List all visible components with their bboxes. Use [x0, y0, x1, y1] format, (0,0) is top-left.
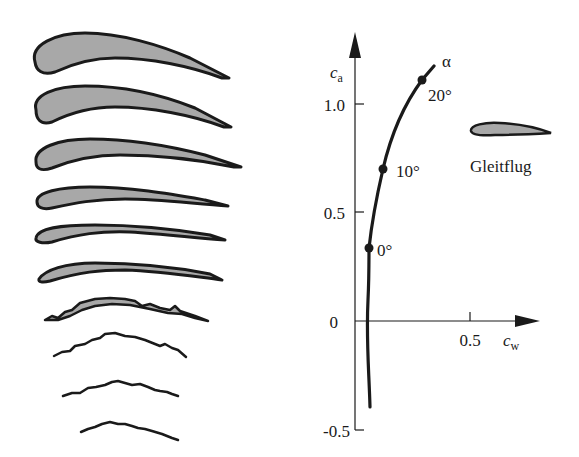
y-tick-label-0.5: 0.5 [324, 204, 345, 223]
point-10deg [379, 165, 388, 174]
y-tick-label-0: 0 [330, 313, 339, 332]
airfoil-profile-2 [36, 86, 231, 127]
y-axis-arrow-icon [349, 32, 361, 58]
y-axis-label: ca [330, 63, 344, 85]
point-label-0deg: 0° [377, 241, 392, 260]
labels: ca 1.0 0.5 0 -0.5 0.5 cw α 20° 10° 0° Gl… [323, 52, 532, 441]
airfoil-series [34, 33, 241, 440]
airfoil-profile-rough-1 [45, 298, 208, 321]
gleitflug-airfoil [471, 123, 551, 136]
point-20deg [418, 76, 427, 85]
airfoil-profile-4 [37, 187, 228, 209]
point-0deg [365, 244, 374, 253]
point-label-10deg: 10° [396, 162, 420, 181]
point-label-20deg: 20° [428, 86, 452, 105]
airfoil-profile-rough-4 [81, 422, 178, 440]
x-axis-label: cw [503, 331, 520, 353]
airfoil-profile-1 [34, 33, 229, 78]
y-tick-label-minus-0.5: -0.5 [323, 422, 350, 441]
x-tick-label-0.5: 0.5 [459, 331, 480, 350]
polar-curve [367, 66, 434, 407]
airfoil-profile-3 [36, 139, 241, 170]
airfoil-profile-5 [36, 225, 225, 243]
airfoil-profile-6 [39, 263, 222, 282]
gleitflug-label: Gleitflug [470, 157, 532, 176]
airfoil-profile-rough-3 [63, 381, 178, 396]
airfoil-profile-rough-2 [54, 333, 186, 357]
alpha-label: α [442, 52, 451, 71]
y-tick-label-1.0: 1.0 [324, 96, 345, 115]
polar-diagram: ca 1.0 0.5 0 -0.5 0.5 cw α 20° 10° 0° Gl… [0, 0, 579, 457]
x-axis-arrow-icon [515, 315, 540, 327]
